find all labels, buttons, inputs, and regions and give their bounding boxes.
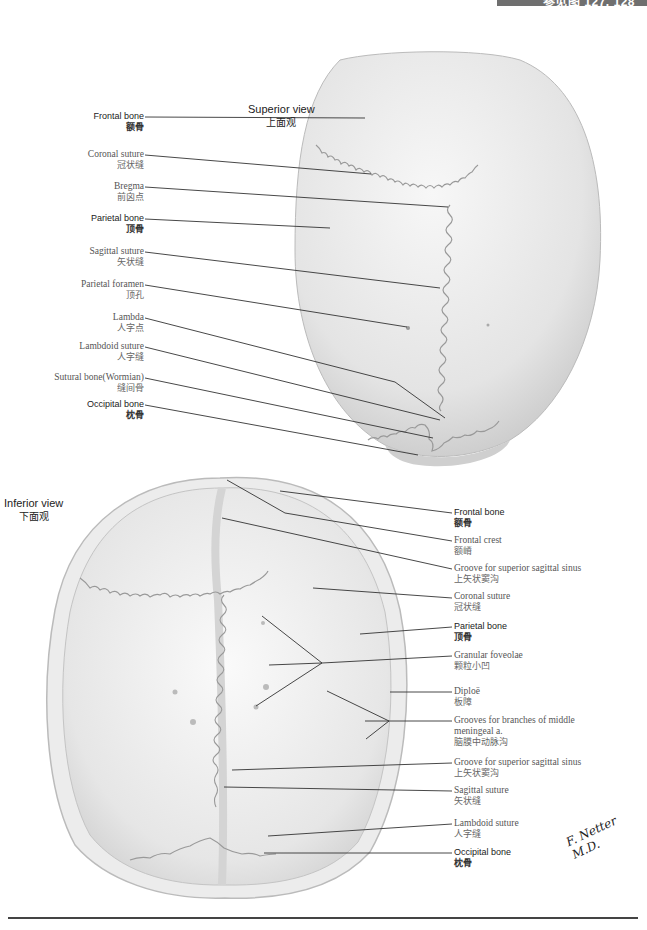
label-zh: 顶孔 — [81, 290, 144, 301]
label-zh: 上矢状窦沟 — [454, 574, 581, 585]
label-inf-lambdoid-suture: Lambdoid suture 人字缝 — [454, 818, 519, 840]
label-en: Lambdoid suture — [79, 341, 144, 352]
superior-skull — [295, 52, 601, 466]
label-en: Sagittal suture — [89, 246, 144, 257]
label-zh: 矢状缝 — [89, 257, 144, 268]
label-zh: 额骨 — [93, 122, 144, 133]
label-inf-groove-sagittal-sinus-2: Groove for superior sagittal sinus 上矢状窦沟 — [454, 757, 581, 779]
label-inf-grooves-middle-meningeal: Grooves for branches of middle meningeal… — [454, 715, 575, 748]
label-zh: 前囟点 — [114, 192, 144, 203]
label-inf-occipital-bone: Occipital bone 枕骨 — [454, 847, 511, 869]
label-en: Sutural bone(Wormian) — [54, 372, 144, 383]
label-en: Groove for superior sagittal sinus — [454, 757, 581, 768]
label-en: Parietal bone — [454, 621, 507, 632]
label-en: Coronal suture — [88, 149, 144, 160]
label-zh: 人字缝 — [79, 352, 144, 363]
label-en: Coronal suture — [454, 591, 510, 602]
label-zh: 脑膜中动脉沟 — [454, 737, 575, 748]
inferior-view-title: Inferior view 下面观 — [4, 497, 63, 523]
superior-view-title: Superior view 上面观 — [248, 103, 315, 129]
label-inf-sagittal-suture: Sagittal suture 矢状缝 — [454, 785, 509, 807]
label-zh: 额嵴 — [454, 546, 502, 557]
label-zh: 枕骨 — [87, 410, 144, 421]
label-inf-frontal-crest: Frontal crest 额嵴 — [454, 535, 502, 557]
label-zh: 矢状缝 — [454, 796, 509, 807]
label-zh: 颗粒小凹 — [454, 661, 523, 672]
label-en: Frontal bone — [454, 507, 505, 518]
label-sup-occipital-bone: Occipital bone 枕骨 — [87, 399, 144, 421]
label-zh: 板障 — [454, 697, 480, 708]
label-zh: 缝间骨 — [54, 383, 144, 394]
label-sup-sagittal-suture: Sagittal suture 矢状缝 — [89, 246, 144, 268]
label-zh: 顶骨 — [91, 224, 144, 235]
label-sup-sutural-bone: Sutural bone(Wormian) 缝间骨 — [54, 372, 144, 394]
label-en: Sagittal suture — [454, 785, 509, 796]
label-zh: 冠状缝 — [88, 160, 144, 171]
label-en: Parietal bone — [91, 213, 144, 224]
label-en: Occipital bone — [454, 847, 511, 858]
title-zh: 下面观 — [4, 510, 63, 523]
label-en: Parietal foramen — [81, 279, 144, 290]
label-en: Grooves for branches of middle — [454, 715, 575, 726]
label-sup-bregma: Bregma 前囟点 — [114, 181, 144, 203]
label-inf-coronal-suture: Coronal suture 冠状缝 — [454, 591, 510, 613]
label-sup-frontal-bone: Frontal bone 额骨 — [93, 111, 144, 133]
skull-illustration — [0, 0, 647, 930]
label-zh: 枕骨 — [454, 858, 511, 869]
label-zh: 人字缝 — [454, 829, 519, 840]
label-en: Lambdoid suture — [454, 818, 519, 829]
label-inf-groove-sagittal-sinus-1: Groove for superior sagittal sinus 上矢状窦沟 — [454, 563, 581, 585]
label-en: Occipital bone — [87, 399, 144, 410]
label-inf-diploe: Diploë 板障 — [454, 686, 480, 708]
label-sup-lambda: Lambda 人字点 — [113, 312, 144, 334]
label-sup-parietal-bone: Parietal bone 顶骨 — [91, 213, 144, 235]
label-en: Diploë — [454, 686, 480, 697]
title-zh: 上面观 — [248, 116, 315, 129]
label-en: Frontal crest — [454, 535, 502, 546]
title-en: Inferior view — [4, 497, 63, 510]
label-en: Frontal bone — [93, 111, 144, 122]
label-en-line2: meningeal a. — [454, 726, 575, 737]
label-zh: 人字点 — [113, 323, 144, 334]
label-inf-frontal-bone: Frontal bone 额骨 — [454, 507, 505, 529]
label-inf-parietal-bone: Parietal bone 顶骨 — [454, 621, 507, 643]
label-inf-granular-foveolae: Granular foveolae 颗粒小凹 — [454, 650, 523, 672]
label-zh: 额骨 — [454, 518, 505, 529]
label-en: Groove for superior sagittal sinus — [454, 563, 581, 574]
label-en: Bregma — [114, 181, 144, 192]
label-zh: 上矢状窦沟 — [454, 768, 581, 779]
label-sup-parietal-foramen: Parietal foramen 顶孔 — [81, 279, 144, 301]
label-en: Lambda — [113, 312, 144, 323]
title-en: Superior view — [248, 103, 315, 116]
label-sup-coronal-suture: Coronal suture 冠状缝 — [88, 149, 144, 171]
bottom-divider — [8, 917, 638, 919]
label-zh: 冠状缝 — [454, 602, 510, 613]
label-en: Granular foveolae — [454, 650, 523, 661]
label-sup-lambdoid-suture: Lambdoid suture 人字缝 — [79, 341, 144, 363]
label-zh: 顶骨 — [454, 632, 507, 643]
inferior-skull — [47, 477, 407, 898]
